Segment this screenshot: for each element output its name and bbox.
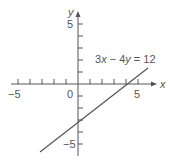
chart-canvas: y 5 x −5 0 5 −5 3x − 4y = 12	[0, 0, 176, 164]
y-tick-label-5: 5	[67, 18, 73, 30]
y-axis-arrow-icon	[76, 11, 81, 17]
y-tick-label-neg5: −5	[63, 138, 76, 150]
x-axis-arrow-icon	[151, 82, 157, 87]
y-axis	[78, 16, 83, 156]
x-axis-label: x	[159, 78, 166, 90]
x-tick-label-5: 5	[134, 88, 140, 100]
x-tick-label-neg5: −5	[8, 88, 21, 100]
equation-line	[40, 68, 148, 152]
y-axis-label: y	[67, 6, 75, 18]
equation-label: 3x − 4y = 12	[95, 53, 156, 65]
origin-label: 0	[67, 88, 73, 100]
